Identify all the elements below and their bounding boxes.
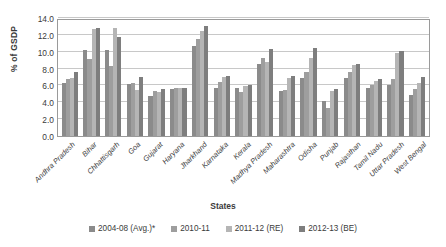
x-axis-tick-label: Goa: [127, 140, 143, 156]
legend-label: 2010-11: [180, 224, 209, 233]
bar-group: [59, 20, 81, 136]
bar[interactable]: [182, 88, 186, 136]
bar[interactable]: [356, 64, 360, 136]
y-axis-tick-label: 10.0: [2, 48, 54, 58]
bar-group: [254, 20, 276, 136]
bar[interactable]: [139, 77, 143, 136]
bar-group: [189, 20, 211, 136]
y-axis-tick-labels: 0.02.04.06.08.010.012.014.0: [0, 19, 54, 137]
legend-item[interactable]: 2010-11: [171, 224, 209, 233]
bar[interactable]: [226, 76, 230, 136]
bar-group: [276, 20, 298, 136]
legend-swatch-icon: [171, 226, 177, 232]
y-axis-tick-label: 14.0: [2, 14, 54, 24]
bar[interactable]: [96, 28, 100, 136]
bar[interactable]: [399, 51, 403, 136]
y-axis-tick-label: 8.0: [2, 65, 54, 75]
x-axis-tick-label: Odisha: [295, 140, 318, 163]
x-axis-tick-label: Bihar: [80, 140, 99, 159]
legend-swatch-icon: [299, 226, 305, 232]
bar[interactable]: [378, 79, 382, 136]
bar-group: [341, 20, 363, 136]
bar[interactable]: [161, 89, 165, 136]
bar-group: [385, 20, 407, 136]
gridline: [58, 17, 429, 18]
bar-group: [363, 20, 385, 136]
legend-swatch-icon: [226, 226, 232, 232]
x-axis-tick-label: Andhra Pradesh: [33, 140, 77, 184]
x-axis-title: States: [0, 201, 446, 211]
x-axis-tick-labels: Andhra PradeshBiharChhattisgarhGoaGujara…: [57, 138, 430, 196]
legend-label: 2004-08 (Avg.)*: [98, 224, 155, 233]
bar[interactable]: [313, 48, 317, 136]
bar[interactable]: [334, 89, 338, 136]
bar[interactable]: [269, 49, 273, 136]
bar-group: [406, 20, 428, 136]
bar-groups: [58, 20, 429, 136]
bar-group: [81, 20, 103, 136]
bar[interactable]: [74, 72, 78, 136]
legend-item[interactable]: 2011-12 (RE): [226, 224, 284, 233]
legend-item[interactable]: 2004-08 (Avg.)*: [89, 224, 155, 233]
y-axis-tick-label: 0.0: [2, 132, 54, 142]
chart-legend: 2004-08 (Avg.)*2010-112011-12 (RE)2012-1…: [0, 224, 446, 233]
legend-swatch-icon: [89, 226, 95, 232]
bar-group: [102, 20, 124, 136]
bar[interactable]: [248, 85, 252, 136]
chart-figure: % of GSDP 0.02.04.06.08.010.012.014.0 An…: [0, 0, 446, 247]
bar-group: [298, 20, 320, 136]
y-axis-tick-label: 6.0: [2, 81, 54, 91]
bar-group: [211, 20, 233, 136]
bar-group: [233, 20, 255, 136]
bar-group: [146, 20, 168, 136]
bar-group: [124, 20, 146, 136]
plot-area: [57, 19, 430, 137]
bar-group: [319, 20, 341, 136]
bar[interactable]: [117, 37, 121, 136]
bar[interactable]: [291, 76, 295, 136]
legend-label: 2011-12 (RE): [235, 224, 284, 233]
bar[interactable]: [421, 77, 425, 136]
y-axis-tick-label: 2.0: [2, 115, 54, 125]
legend-item[interactable]: 2012-13 (BE): [299, 224, 357, 233]
bar-group: [168, 20, 190, 136]
y-axis-tick-label: 4.0: [2, 98, 54, 108]
bar[interactable]: [204, 26, 208, 136]
legend-label: 2012-13 (BE): [308, 224, 357, 233]
y-axis-tick-label: 12.0: [2, 31, 54, 41]
